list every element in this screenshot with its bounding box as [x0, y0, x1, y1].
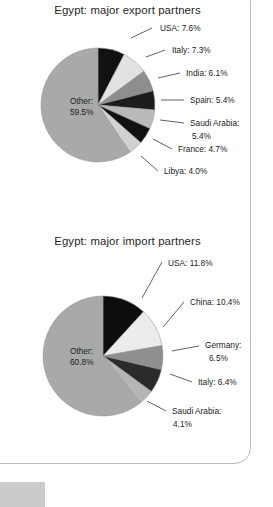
- leader-line-china: [163, 302, 184, 327]
- slice-value-other: 59.5%: [70, 107, 94, 117]
- leader-line-saudi-arabia: [147, 401, 166, 411]
- export-pie-svg: USA: 7.6%Italy: 7.3%India: 6.1%Spain: 5.…: [0, 0, 273, 228]
- slice-label-france: France: 4.7%: [178, 144, 228, 154]
- slice-label-italy: Italy: 6.4%: [198, 377, 237, 387]
- leader-line-italy: [146, 50, 165, 57]
- import-pie-svg: USA: 11.8%China: 10.4%Germany:6.5%Italy:…: [0, 228, 273, 456]
- export-partners-chart: Egypt: major export partners USA: 7.6%It…: [0, 0, 273, 228]
- slice-value-other: 60.8%: [70, 357, 94, 367]
- slice-value-germany: 6.5%: [209, 353, 229, 363]
- leader-line-usa: [142, 262, 162, 298]
- slice-label-spain: Spain: 5.4%: [190, 95, 235, 105]
- slice-label-other: Other:: [70, 346, 93, 356]
- slice-label-india: India: 6.1%: [186, 68, 228, 78]
- slice-label-italy: Italy: 7.3%: [172, 45, 211, 55]
- leader-line-india: [158, 73, 180, 78]
- leader-line-france: [153, 139, 172, 149]
- leader-line-germany: [172, 346, 199, 351]
- slice-label-germany: Germany:: [205, 340, 241, 350]
- page-corner-block: [0, 482, 45, 507]
- slice-label-usa: USA: 11.8%: [168, 258, 213, 268]
- slice-label-libya: Libya: 4.0%: [164, 166, 208, 176]
- slice-label-usa: USA: 7.6%: [160, 23, 201, 33]
- leader-line-libya: [141, 156, 158, 171]
- import-partners-chart: Egypt: major import partners USA: 11.8%C…: [0, 228, 273, 456]
- leader-line-saudi-arabia: [160, 120, 184, 123]
- slice-label-other: Other:: [70, 96, 93, 106]
- leader-line-usa: [131, 28, 152, 38]
- slice-label-china: China: 10.4%: [190, 297, 240, 307]
- leader-line-italy: [170, 374, 192, 382]
- slice-value-saudi-arabia: 4.1%: [173, 419, 193, 429]
- slice-label-saudi-arabia: Saudi Arabia:: [172, 406, 221, 416]
- slice-label-saudi-arabia: Saudi Arabia:: [190, 118, 239, 128]
- slice-value-saudi-arabia: 5.4%: [192, 131, 212, 141]
